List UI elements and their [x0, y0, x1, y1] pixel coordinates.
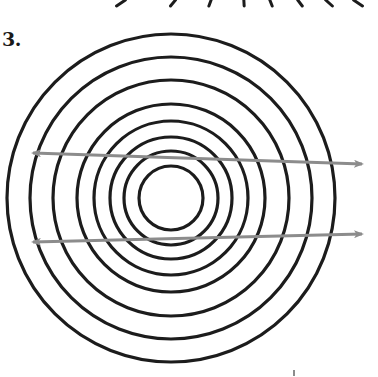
ring-6	[53, 80, 289, 316]
top-mark	[298, 0, 303, 6]
top-mark	[209, 0, 211, 6]
concentric-circles-diagram: 3.	[0, 0, 378, 377]
top-mark	[354, 0, 363, 6]
top-mark	[270, 0, 272, 6]
problem-number-label: 3.	[2, 28, 21, 50]
top-mark	[117, 0, 126, 6]
ring-8	[7, 34, 335, 362]
ring-5	[77, 104, 265, 292]
top-partial-marks	[117, 0, 363, 6]
ring-7	[30, 57, 312, 339]
top-mark	[171, 0, 176, 6]
ring-1	[139, 166, 203, 230]
diagram-canvas	[0, 0, 378, 377]
ring-4	[94, 121, 248, 275]
concentric-rings	[7, 34, 335, 362]
top-mark	[326, 0, 333, 6]
